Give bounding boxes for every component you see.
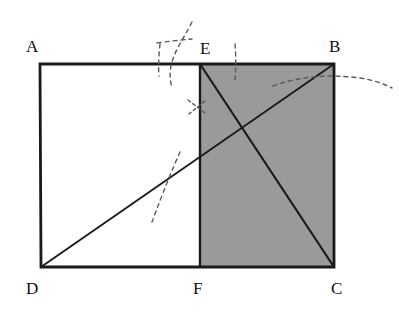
pencil-tick-left-of-E <box>159 44 160 76</box>
vertex-label-D: D <box>26 280 38 297</box>
vertex-label-A: A <box>26 38 38 55</box>
vertex-label-B: B <box>329 38 340 55</box>
geometry-figure: A B E D F C <box>0 0 399 317</box>
vertex-label-F: F <box>193 280 202 297</box>
vertex-label-C: C <box>331 280 342 297</box>
pencil-cross-near-E <box>157 39 192 43</box>
pencil-mark-above-E <box>170 22 192 88</box>
vertex-label-E: E <box>200 40 210 57</box>
